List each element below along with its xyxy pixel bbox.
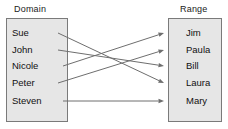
mapping-arrow-line-2 [63, 35, 159, 66]
range-member-0: Jim [186, 28, 201, 38]
range-member-4: Mary [186, 96, 207, 106]
mapping-arrow-head-0 [158, 79, 164, 83]
domain-member-2: Nicole [12, 61, 38, 71]
mapping-arrow-head-3 [158, 50, 164, 54]
domain-member-4: Steven [12, 96, 42, 106]
domain-member-3: Peter [12, 78, 35, 88]
mapping-arrow-line-0 [58, 33, 159, 81]
mapping-arrow-head-4 [159, 99, 165, 103]
range-column-label: Range [180, 4, 208, 14]
mapping-arrow-line-1 [58, 50, 159, 65]
domain-member-1: John [12, 45, 33, 55]
mapping-diagram: Domain Range Sue John Nicole Peter Steve… [0, 0, 228, 129]
mapping-arrow-line-3 [58, 52, 159, 83]
domain-member-0: Sue [12, 28, 29, 38]
range-member-2: Bill [186, 61, 199, 71]
domain-column-label: Domain [14, 4, 46, 14]
mapping-arrow-head-1 [158, 63, 164, 67]
range-member-1: Paula [186, 45, 210, 55]
mapping-arrow-head-2 [158, 33, 164, 37]
range-member-3: Laura [186, 78, 210, 88]
